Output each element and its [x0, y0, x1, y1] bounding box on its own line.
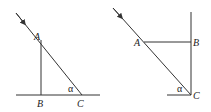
- right-figure: A B C α: [113, 8, 200, 101]
- right-incident-ray: [113, 8, 191, 95]
- left-label-alpha: α: [68, 83, 74, 94]
- left-label-b: B: [37, 98, 43, 109]
- right-label-a: A: [133, 37, 141, 48]
- right-arrow-icon: [113, 8, 121, 17]
- right-label-b: B: [193, 37, 199, 48]
- right-label-c: C: [193, 90, 200, 101]
- left-arrow-icon: [16, 13, 24, 23]
- diagram-canvas: A B C α A B C α: [0, 0, 211, 112]
- left-label-a: A: [33, 31, 41, 42]
- right-label-alpha: α: [177, 83, 183, 94]
- left-label-c: C: [77, 98, 84, 109]
- left-figure: A B C α: [16, 13, 100, 109]
